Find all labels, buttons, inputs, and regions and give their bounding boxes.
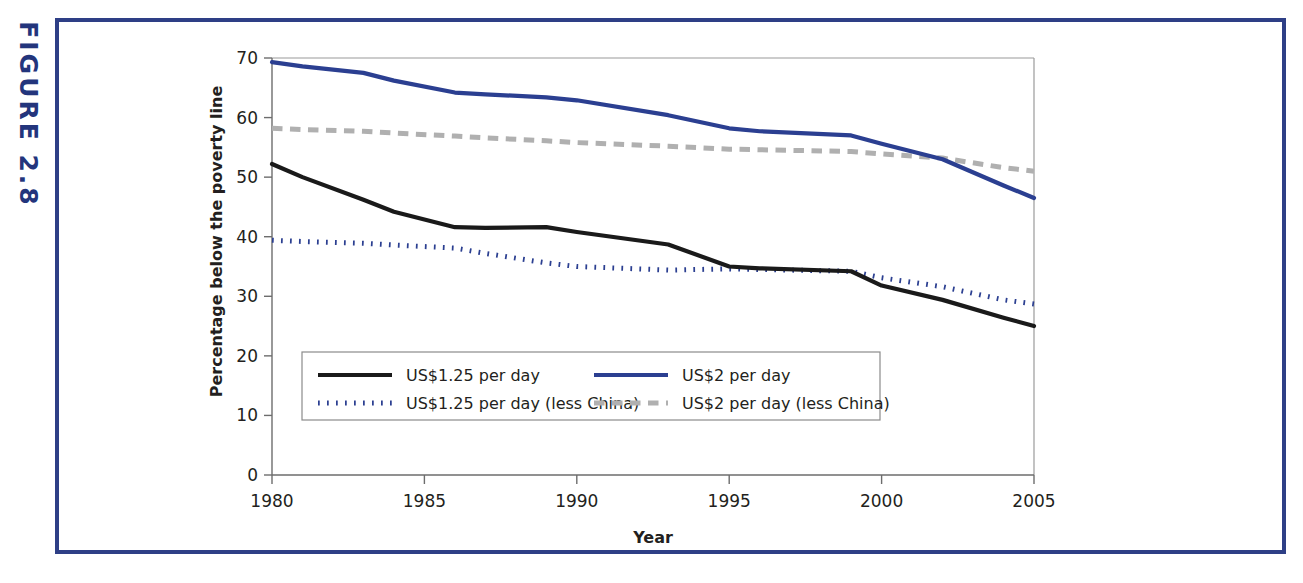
- y-tick-label: 0: [247, 465, 258, 485]
- x-tick-label: 2000: [860, 491, 903, 511]
- y-tick-label: 40: [236, 227, 258, 247]
- series-line: [272, 128, 1034, 171]
- x-tick-label: 2005: [1012, 491, 1055, 511]
- x-tick-label: 1995: [708, 491, 751, 511]
- tick-labels: 010203040506070198019851990199520002005: [236, 48, 1055, 511]
- legend-label: US$2 per day (less China): [682, 394, 890, 413]
- series-line: [272, 164, 1034, 326]
- x-tick-label: 1980: [250, 491, 293, 511]
- chart-legend: US$1.25 per dayUS$2 per dayUS$1.25 per d…: [302, 352, 890, 420]
- y-axis-title: Percentage below the poverty line: [207, 86, 226, 398]
- y-tick-label: 20: [236, 346, 258, 366]
- y-tick-label: 30: [236, 286, 258, 306]
- y-tick-label: 10: [236, 405, 258, 425]
- chart-container: 010203040506070198019851990199520002005 …: [0, 0, 1303, 583]
- x-tick-label: 1990: [555, 491, 598, 511]
- poverty-line-chart: 010203040506070198019851990199520002005 …: [0, 0, 1303, 583]
- x-tick-label: 1985: [403, 491, 446, 511]
- y-tick-label: 50: [236, 167, 258, 187]
- x-axis-title: Year: [632, 528, 673, 547]
- axis-titles: YearPercentage below the poverty line: [207, 86, 673, 547]
- legend-label: US$1.25 per day: [406, 366, 540, 385]
- series-line: [272, 62, 1034, 198]
- data-series: [272, 62, 1034, 326]
- legend-label: US$2 per day: [682, 366, 790, 385]
- y-tick-label: 60: [236, 108, 258, 128]
- y-tick-label: 70: [236, 48, 258, 68]
